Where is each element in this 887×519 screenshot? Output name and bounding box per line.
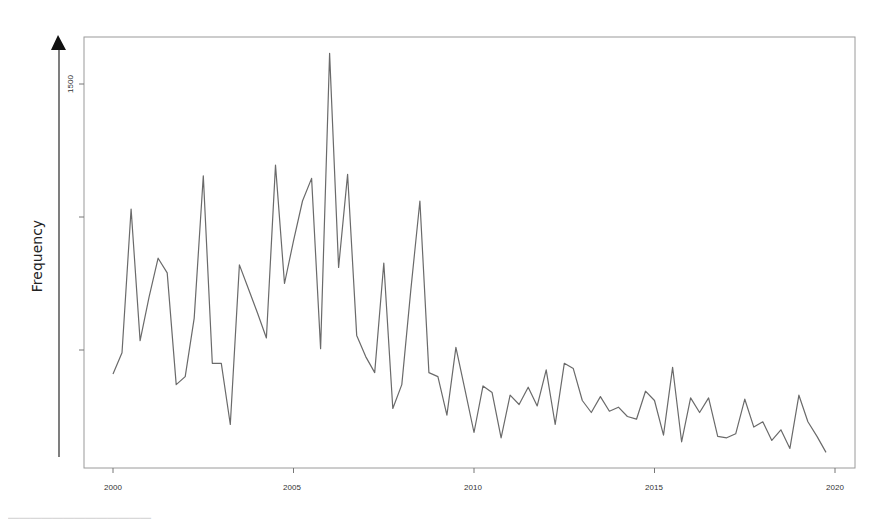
y-axis-ticks: [79, 84, 84, 350]
x-tick-label-2000: 2000: [104, 483, 122, 492]
x-tick-label-2005: 2005: [283, 483, 301, 492]
y-tick-label-1500: 1500: [66, 75, 75, 93]
x-axis-ticks: [113, 468, 835, 473]
arrow-up-icon: [51, 35, 66, 50]
frequency-series-line: [113, 53, 826, 452]
figure-caption-clipped: ▬▬▬▬▬▬▬▬▬▬▬▬▬: [8, 512, 268, 519]
x-tick-label-2010: 2010: [464, 483, 482, 492]
chart: Frequency 1500 2000 2005 2010 2015 2020: [0, 0, 887, 519]
x-axis-tick-labels: 2000 2005 2010 2015 2020: [104, 483, 844, 492]
plot-frame: [84, 37, 855, 468]
y-arrow-axis: [51, 35, 66, 457]
y-axis-label: Frequency: [29, 220, 45, 292]
x-tick-label-2020: 2020: [826, 483, 844, 492]
x-tick-label-2015: 2015: [645, 483, 663, 492]
